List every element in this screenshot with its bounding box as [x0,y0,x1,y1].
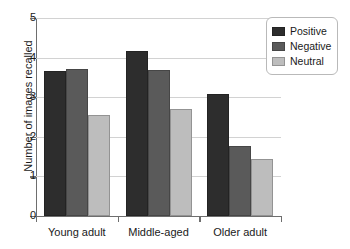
legend-item-neutral[interactable]: Neutral [272,54,331,68]
bar-positive-middle-aged[interactable] [126,51,148,216]
legend-label-positive: Positive [290,26,327,37]
y-tick-label-5: 5 [10,12,36,23]
bars-layer [36,18,281,216]
x-axis-line [36,216,281,217]
legend: Positive Negative Neutral [266,17,338,75]
bar-positive-young-adult[interactable] [44,71,66,216]
bar-negative-young-adult[interactable] [66,69,88,216]
x-axis-label-0: Young adult [30,226,124,238]
bar-neutral-middle-aged[interactable] [170,109,192,216]
legend-swatch-negative [272,42,285,51]
x-axis-label-1: Middle-aged [112,226,206,238]
bar-positive-older-adult[interactable] [207,94,229,216]
legend-swatch-positive [272,27,285,36]
x-tick-mark-3 [281,216,282,222]
bar-negative-middle-aged[interactable] [148,70,170,216]
bar-negative-older-adult[interactable] [229,146,251,216]
legend-label-neutral: Neutral [290,56,324,67]
y-axis-title: Number of images recalled [22,26,34,186]
x-tick-mark-1 [118,216,119,222]
bar-chart: 012345 Number of images recalled Young a… [0,0,350,249]
legend-label-negative: Negative [290,41,331,52]
legend-item-positive[interactable]: Positive [272,24,331,38]
x-tick-mark-0 [36,216,37,222]
bar-group [207,18,273,216]
x-tick-mark-2 [199,216,200,222]
legend-item-negative[interactable]: Negative [272,39,331,53]
bar-neutral-young-adult[interactable] [88,115,110,216]
bar-group [44,18,110,216]
bar-group [126,18,192,216]
x-axis-label-2: Older adult [193,226,287,238]
bar-neutral-older-adult[interactable] [251,159,273,216]
legend-swatch-neutral [272,57,285,66]
y-tick-label-0: 0 [10,210,36,221]
